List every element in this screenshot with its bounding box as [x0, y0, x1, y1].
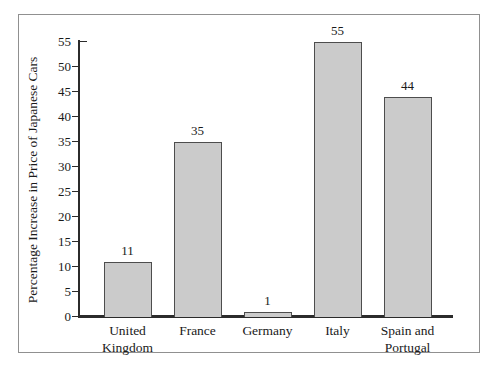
y-tick-label: 35: [38, 134, 71, 150]
y-tick-mark: [72, 116, 78, 117]
bar-value-label: 35: [168, 123, 228, 139]
bar: [104, 262, 152, 317]
y-tick-mark: [72, 266, 78, 267]
bar-value-label: 55: [308, 23, 368, 39]
bar: [384, 97, 432, 317]
bar-value-label: 11: [98, 243, 158, 259]
y-tick-label: 40: [38, 109, 71, 125]
bar: [244, 312, 292, 317]
y-tick-label: 55: [38, 34, 71, 50]
bar: [314, 42, 362, 317]
y-tick-mark: [72, 191, 78, 192]
plot-area: 051015202530354045505511United Kingdom35…: [0, 0, 491, 370]
category-label: Spain and Portugal: [362, 322, 454, 356]
y-tick-mark: [72, 166, 78, 167]
y-tick-label: 30: [38, 159, 71, 175]
y-tick-label: 0: [38, 309, 71, 325]
y-tick-label: 50: [38, 59, 71, 75]
bar-value-label: 1: [238, 293, 298, 309]
y-tick-mark: [72, 66, 78, 67]
y-axis-top-cap: [80, 41, 87, 42]
y-tick-mark: [72, 141, 78, 142]
y-tick-mark: [72, 216, 78, 217]
y-tick-label: 10: [38, 259, 71, 275]
y-tick-label: 5: [38, 284, 71, 300]
bar-chart-figure: Percentage Increase in Price of Japanese…: [0, 0, 491, 370]
bar: [174, 142, 222, 317]
y-tick-mark: [72, 91, 78, 92]
y-tick-label: 45: [38, 84, 71, 100]
y-tick-label: 25: [38, 184, 71, 200]
y-tick-mark: [72, 291, 78, 292]
y-axis-line: [78, 40, 80, 318]
y-tick-label: 15: [38, 234, 71, 250]
y-tick-mark: [72, 316, 78, 317]
y-tick-label: 20: [38, 209, 71, 225]
bar-value-label: 44: [378, 78, 438, 94]
y-tick-mark: [72, 241, 78, 242]
